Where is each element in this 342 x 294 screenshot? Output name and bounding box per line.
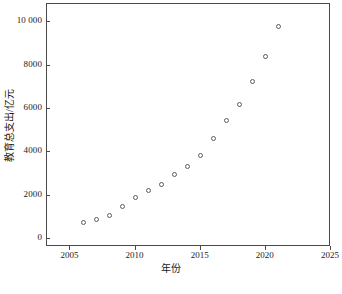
scatter-point [107,213,112,218]
x-axis-tick-label: 2010 [113,250,157,260]
y-axis-tick-mark [46,65,50,66]
scatter-point [146,188,151,193]
scatter-point [185,164,190,169]
x-axis-tick-label: 2025 [308,250,342,260]
scatter-point [276,24,281,29]
scatter-point [172,172,177,177]
scatter-point [211,136,216,141]
y-axis-title: 教育总支出/亿元 [4,89,15,162]
scatter-point [120,204,125,209]
scatter-series-layer [47,4,329,245]
y-axis-title-container: 教育总支出/亿元 [1,0,17,250]
y-axis-tick-mark [46,21,50,22]
scatter-point [94,217,99,222]
x-axis-title: 年份 [0,263,342,274]
x-axis-tick-label: 2020 [243,250,287,260]
y-axis-tick-mark [46,238,50,239]
scatter-point [198,153,203,158]
x-axis-tick-label: 2015 [178,250,222,260]
scatter-point [81,220,86,225]
y-axis-tick-mark [46,195,50,196]
scatter-point [250,79,255,84]
scatter-point [159,182,164,187]
scatter-chart-figure: 0200040006000800010 000 教育总支出/亿元 2005201… [0,0,342,294]
scatter-point [263,54,268,59]
scatter-point [237,102,242,107]
y-axis-tick-mark [46,151,50,152]
plot-area [46,3,330,246]
scatter-point [133,195,138,200]
y-axis-tick-mark [46,108,50,109]
x-axis-tick-label: 2005 [47,250,91,260]
scatter-point [224,118,229,123]
